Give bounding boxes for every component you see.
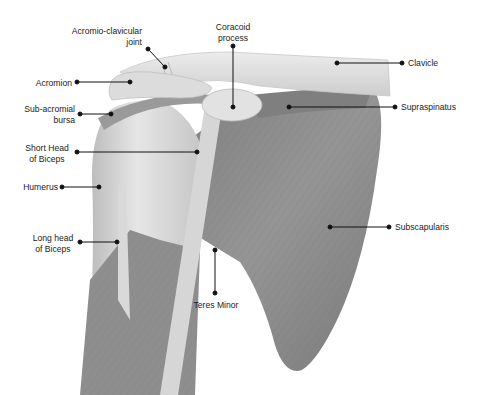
label-coracoid-process: Coracoid process — [208, 22, 258, 43]
anatomy-illustration — [0, 0, 477, 395]
label-sub-acromial-bursa: Sub-acromial bursa — [14, 104, 75, 125]
label-supraspinatus: Supraspinatus — [401, 102, 456, 113]
label-long-head-biceps: Long head of Biceps — [30, 233, 76, 254]
label-teres-minor: Teres Minor — [186, 300, 246, 311]
shoulder-diagram: Acromio-clavicular joint Coracoid proces… — [0, 0, 477, 395]
label-short-head-biceps: Short Head of Biceps — [22, 143, 72, 164]
label-acromion: Acromion — [20, 78, 72, 89]
label-humerus: Humerus — [14, 182, 58, 193]
label-ac-joint: Acromio-clavicular joint — [52, 26, 142, 47]
label-subscapularis: Subscapularis — [395, 222, 449, 233]
label-clavicle: Clavicle — [408, 58, 438, 69]
